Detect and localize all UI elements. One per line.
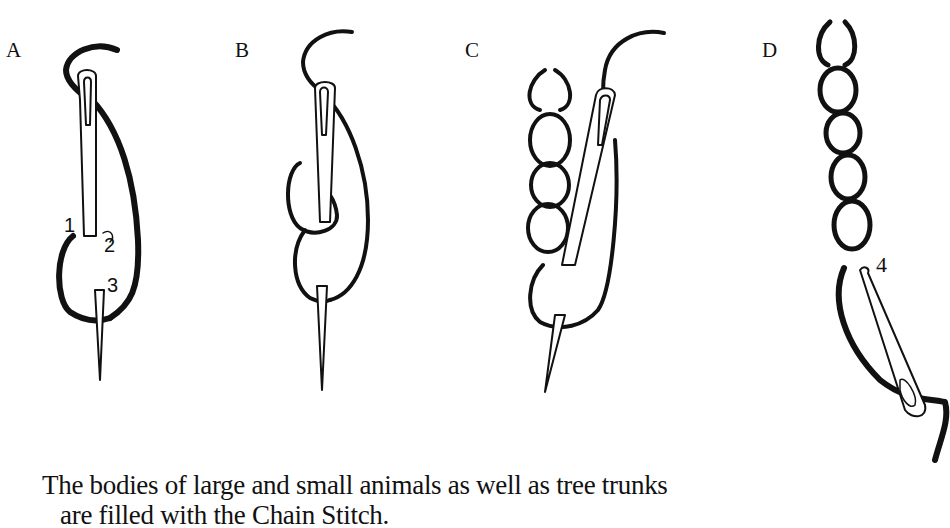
caption-line-2: are filled with the Chain Stitch.: [42, 500, 668, 528]
panel-b-drawing: [288, 31, 368, 390]
chain-stitch-illustration: 1 2 3: [0, 0, 950, 470]
panel-d-drawing: 4: [818, 22, 946, 460]
step-number-1: 1: [64, 214, 75, 236]
step-number-2: 2: [104, 234, 115, 256]
step-number-4: 4: [876, 252, 887, 277]
figure-caption: The bodies of large and small animals as…: [42, 470, 668, 528]
panel-c-drawing: [528, 32, 664, 392]
panel-a-drawing: 1 2 3: [59, 46, 138, 380]
step-number-3: 3: [107, 274, 118, 296]
caption-line-1: The bodies of large and small animals as…: [42, 470, 668, 500]
